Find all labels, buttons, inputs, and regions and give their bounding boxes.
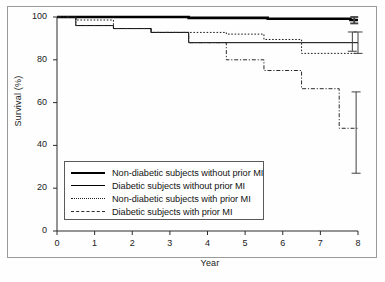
legend-swatch-solid-thin (70, 181, 107, 191)
y-tick-label-40: 40 (21, 139, 47, 149)
series-line (57, 17, 358, 20)
x-tick-label-3: 3 (162, 238, 178, 248)
legend-item: Diabetic subjects without prior MI (65, 179, 263, 192)
y-tick-label-20: 20 (21, 182, 47, 192)
legend-swatch-solid-thick (70, 168, 107, 178)
legend-item: Diabetic subjects with prior MI (65, 205, 263, 218)
series-line (57, 17, 358, 128)
x-axis-label: Year (150, 258, 270, 268)
y-tick-label-80: 80 (21, 54, 47, 64)
x-tick-label-7: 7 (312, 238, 328, 248)
y-tick-label-60: 60 (21, 97, 47, 107)
x-tick-label-0: 0 (49, 238, 65, 248)
x-tick-label-6: 6 (275, 238, 291, 248)
legend-label: Diabetic subjects without prior MI (107, 181, 245, 191)
chart-legend: Non-diabetic subjects without prior MI D… (64, 161, 264, 220)
x-tick-label-1: 1 (87, 238, 103, 248)
series-group (57, 17, 358, 128)
legend-item: Non-diabetic subjects with prior MI (65, 192, 263, 205)
series-line (57, 17, 358, 53)
series-line (57, 17, 358, 43)
legend-item: Non-diabetic subjects without prior MI (65, 166, 263, 179)
x-tick-label-5: 5 (237, 238, 253, 248)
legend-swatch-dash-dot (70, 207, 107, 217)
y-tick-label-0: 0 (21, 225, 47, 235)
figure-container: Survival (%) Year 020406080100 012345678… (0, 0, 385, 282)
y-tick-label-100: 100 (21, 11, 47, 21)
x-tick-label-2: 2 (124, 238, 140, 248)
error-bar (348, 32, 357, 51)
legend-label: Diabetic subjects with prior MI (107, 207, 232, 217)
legend-label: Non-diabetic subjects with prior MI (107, 194, 251, 204)
x-tick-label-4: 4 (200, 238, 216, 248)
x-tick-label-8: 8 (350, 238, 366, 248)
error-bar (352, 92, 361, 173)
legend-swatch-dotted (70, 194, 107, 204)
errorbar-group (348, 17, 363, 173)
legend-label: Non-diabetic subjects without prior MI (107, 168, 263, 178)
